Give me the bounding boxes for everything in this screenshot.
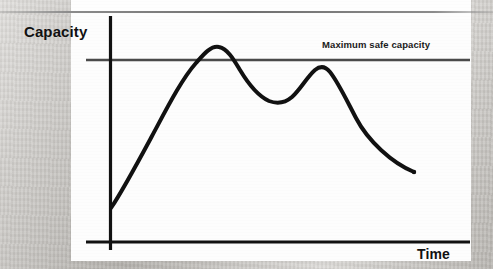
- x-axis-label: Time: [417, 246, 450, 262]
- y-axis-label: Capacity: [24, 23, 87, 40]
- figure-screenshot: Capacity Time Maximum safe capacity: [0, 0, 493, 269]
- max-safe-capacity-label: Maximum safe capacity: [322, 39, 430, 50]
- curve-end-point: [412, 170, 416, 174]
- capacity-curve: [111, 47, 414, 208]
